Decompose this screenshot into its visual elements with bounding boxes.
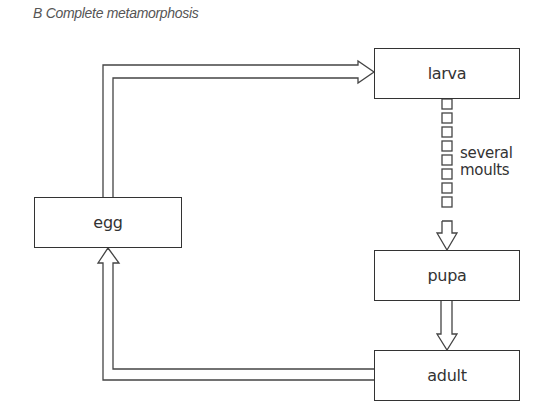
node-egg-label: egg [93, 213, 122, 232]
arrow-adult-to-egg [98, 248, 374, 380]
edge-label-line-1: several [460, 145, 513, 162]
node-egg: egg [34, 197, 182, 248]
node-larva: larva [374, 48, 520, 99]
node-larva-label: larva [428, 64, 467, 83]
edge-label-moults: several moults [460, 145, 513, 179]
node-pupa-label: pupa [427, 266, 466, 285]
arrow-larva-to-pupa [437, 99, 457, 250]
node-pupa: pupa [374, 250, 520, 301]
node-adult: adult [374, 350, 520, 401]
arrow-egg-to-larva [103, 61, 374, 197]
node-adult-label: adult [427, 366, 466, 385]
edge-label-line-2: moults [460, 162, 513, 179]
arrow-pupa-to-adult [437, 300, 457, 350]
